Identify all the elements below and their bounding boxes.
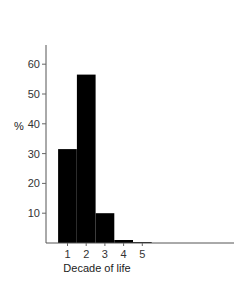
y-axis-label: % xyxy=(14,120,24,132)
y-tick-label: 20 xyxy=(28,177,40,189)
x-tick-label: 1 xyxy=(64,248,70,260)
histogram-chart: 102030405060 12345 % Decade of life xyxy=(0,0,249,282)
x-tick-label: 4 xyxy=(121,248,127,260)
y-tick-label: 10 xyxy=(28,207,40,219)
y-tick-label: 40 xyxy=(28,118,40,130)
x-tick-label: 2 xyxy=(83,248,89,260)
chart-container: 102030405060 12345 % Decade of life xyxy=(0,0,249,282)
y-tick-label: 50 xyxy=(28,88,40,100)
x-tick-label: 3 xyxy=(102,248,108,260)
y-tick-label: 30 xyxy=(28,148,40,160)
bar-decade-2 xyxy=(77,75,96,243)
x-tick-label: 5 xyxy=(139,248,145,260)
y-ticks-group: 102030405060 xyxy=(28,58,46,219)
x-axis-label: Decade of life xyxy=(63,262,130,274)
bar-decade-3 xyxy=(96,213,115,243)
bars-group xyxy=(58,75,152,243)
x-ticks-group: 12345 xyxy=(64,243,145,260)
bar-decade-1 xyxy=(58,149,77,243)
y-tick-label: 60 xyxy=(28,58,40,70)
